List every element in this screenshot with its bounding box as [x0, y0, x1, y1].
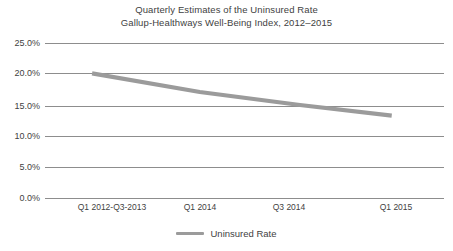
plot-area	[45, 43, 444, 198]
series-uninsured-rate	[45, 43, 444, 198]
chart-title-block: Quarterly Estimates of the Uninsured Rat…	[0, 4, 453, 29]
x-axis-tick-label: Q3 2014	[273, 202, 306, 212]
y-axis-tick-label: 10.0%	[0, 132, 40, 141]
x-axis-tick-label: Q1 2014	[184, 202, 217, 212]
x-axis-tick-label: Q1 2012-Q3-2013	[78, 202, 147, 212]
page-title: Quarterly Estimates of the Uninsured Rat…	[0, 4, 453, 17]
chart-subtitle: Gallup-Healthways Well-Being Index, 2012…	[0, 17, 453, 30]
gridline	[45, 198, 444, 199]
x-axis-labels: Q1 2012-Q3-2013 Q1 2014 Q3 2014 Q1 2015	[0, 202, 453, 218]
chart-legend: Uninsured Rate	[0, 228, 453, 239]
chart-container: Quarterly Estimates of the Uninsured Rat…	[0, 0, 453, 251]
y-axis-tick-label: 5.0%	[0, 163, 40, 172]
x-axis-tick-label: Q1 2015	[380, 202, 413, 212]
y-axis-tick-label: 25.0%	[0, 39, 40, 48]
y-axis-tick-label: 20.0%	[0, 69, 40, 78]
legend-item-label: Uninsured Rate	[210, 228, 276, 239]
legend-color-swatch	[176, 232, 204, 236]
y-axis-tick-label: 15.0%	[0, 102, 40, 111]
